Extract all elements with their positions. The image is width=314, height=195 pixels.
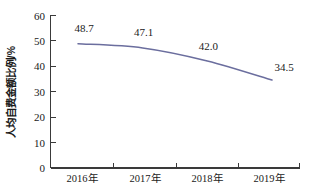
- data-label: 47.1: [134, 26, 153, 38]
- y-tick-label: 60: [34, 10, 46, 22]
- y-axis-ticks: [51, 16, 56, 169]
- y-tick-label: 50: [34, 35, 46, 47]
- data-label: 42.0: [199, 40, 219, 52]
- y-tick-label: 20: [34, 111, 46, 123]
- chart-canvas: 60 50 40 30 20 10 0 人均自费金额比例/% 48.7 47.1…: [0, 0, 314, 195]
- x-tick-label: 2019年: [254, 172, 285, 184]
- x-tick-label: 2017年: [130, 172, 161, 184]
- y-tick-label: 30: [34, 86, 46, 98]
- y-axis-title: 人均自费金额比例/%: [5, 45, 17, 138]
- series-line: [78, 44, 272, 80]
- x-tick-label: 2016年: [67, 172, 98, 184]
- x-axis-ticks: [51, 163, 300, 168]
- y-tick-label: 10: [34, 137, 46, 149]
- y-tick-label: 40: [34, 60, 46, 72]
- data-label: 34.5: [274, 61, 294, 73]
- line-chart: 60 50 40 30 20 10 0 人均自费金额比例/% 48.7 47.1…: [0, 0, 314, 195]
- data-label: 48.7: [74, 22, 94, 34]
- x-tick-label: 2018年: [192, 172, 223, 184]
- y-tick-label: 0: [40, 162, 46, 174]
